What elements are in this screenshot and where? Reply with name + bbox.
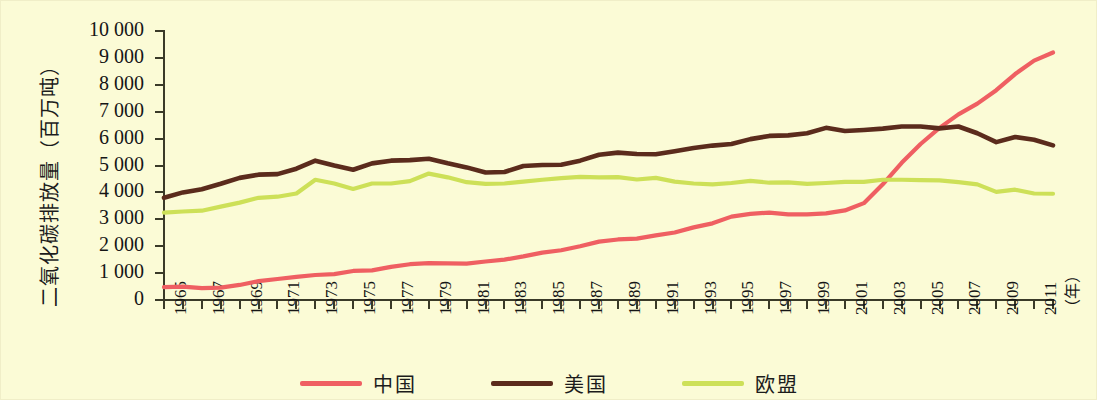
x-tick [352,300,354,309]
x-tick [920,300,922,309]
x-tick [466,300,468,309]
y-tick-label: 8 000 [99,72,144,95]
legend-color-swatch [300,381,362,386]
x-tick [201,300,203,309]
y-axis-title: 二氧化碳排放量（百万吨） [31,21,65,341]
legend-item[interactable]: 美国 [491,369,608,398]
legend-label: 中国 [373,369,417,398]
y-tick: 10 000 [155,30,164,32]
legend: 中国美国欧盟 [1,369,1097,398]
x-tick [768,300,770,309]
y-tick: 5 000 [155,165,164,167]
legend-label: 欧盟 [755,369,799,398]
x-tick [995,300,997,309]
legend-color-swatch [682,381,744,386]
y-tick: 1 000 [155,272,164,274]
y-tick: 7 000 [155,111,164,113]
x-tick [390,300,392,309]
y-tick-label: 3 000 [99,206,144,229]
x-tick [163,300,165,309]
y-tick-label: 2 000 [99,233,144,256]
x-tick [314,300,316,309]
y-tick-label: 9 000 [99,45,144,68]
co2-emissions-line-chart: 二氧化碳排放量（百万吨） 01 0002 0003 0004 0005 0006… [0,0,1097,400]
x-tick [1033,300,1035,309]
x-tick [503,300,505,309]
x-tick [693,300,695,309]
x-tick [806,300,808,309]
x-tick [844,300,846,309]
y-tick-label: 6 000 [99,126,144,149]
y-tick: 6 000 [155,138,164,140]
legend-item[interactable]: 欧盟 [682,369,799,398]
y-tick-label: 1 000 [99,260,144,283]
y-tick-label: 5 000 [99,153,144,176]
series-line [164,127,1053,198]
y-tick: 3 000 [155,218,164,220]
y-tick: 2 000 [155,245,164,247]
legend-item[interactable]: 中国 [300,369,417,398]
x-axis-unit-label: （年） [1059,267,1083,315]
y-tick-label: 10 000 [89,18,144,41]
y-tick-label: 4 000 [99,179,144,202]
x-tick [276,300,278,309]
x-tick [239,300,241,309]
y-tick: 9 000 [155,57,164,59]
y-tick: 8 000 [155,84,164,86]
y-tick-label: 7 000 [99,99,144,122]
x-tick [655,300,657,309]
x-tick [957,300,959,309]
x-tick [617,300,619,309]
x-tick [882,300,884,309]
series-line [164,174,1053,213]
y-tick-label: 0 [134,287,144,310]
series-layer [164,31,1053,300]
y-tick: 4 000 [155,191,164,193]
x-tick [579,300,581,309]
x-tick [730,300,732,309]
x-tick [428,300,430,309]
plot-area: 01 0002 0003 0004 0005 0006 0007 0008 00… [164,31,1053,300]
legend-label: 美国 [564,369,608,398]
legend-color-swatch [491,381,553,386]
x-tick [541,300,543,309]
